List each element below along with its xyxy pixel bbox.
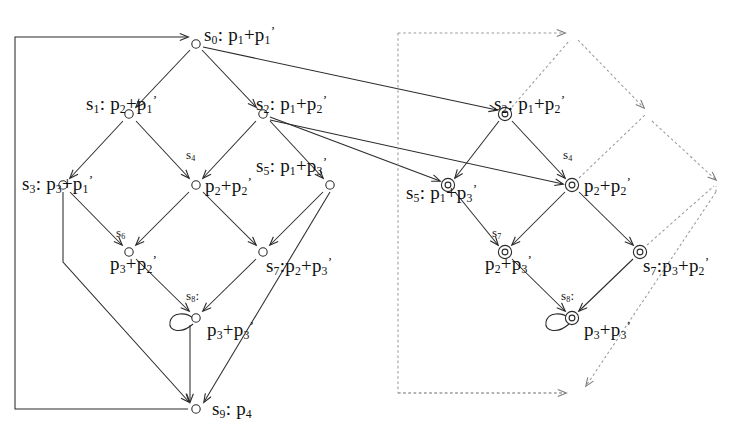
label-s6-expr: p3+p2’ bbox=[110, 253, 157, 275]
dashed-edge-right-down bbox=[652, 121, 716, 180]
edge-s5-s7 bbox=[270, 192, 323, 245]
dashed-edge-apex-right bbox=[578, 40, 644, 108]
label-s2: s2: p1+p2’ bbox=[256, 93, 327, 115]
label-s5: s5: p1+p3’ bbox=[256, 155, 327, 177]
label-s8-tag: s8: bbox=[186, 289, 199, 304]
edge-s4-s7 bbox=[203, 192, 256, 245]
node-r8-inner bbox=[569, 315, 575, 321]
edge-s2-s4 bbox=[203, 121, 256, 178]
edge-s3-s9 bbox=[63, 192, 189, 402]
node-s4 bbox=[192, 181, 200, 189]
label-s4-tag: s4 bbox=[186, 148, 196, 163]
label-s9: s9: p4 bbox=[212, 399, 252, 420]
label-r8-tag: s8: bbox=[561, 289, 574, 304]
label-r8-expr: p3+p3’ bbox=[584, 319, 631, 341]
edge-r2-r5 bbox=[455, 121, 499, 178]
dashed-edge-sink-right bbox=[586, 192, 716, 386]
edge-s1-s3 bbox=[70, 121, 123, 178]
node-s9 bbox=[192, 405, 200, 413]
dashed-box bbox=[398, 33, 566, 393]
node-s8 bbox=[192, 314, 200, 322]
label-r7b: s7:p3+p2’ bbox=[643, 255, 709, 277]
label-s1: s1: p2+p1’ bbox=[86, 93, 157, 115]
label-s6-tag: s6 bbox=[116, 226, 126, 241]
edge-s5-s9 bbox=[204, 192, 330, 402]
edge-s7-s8 bbox=[203, 259, 256, 311]
diagram-vector-layer bbox=[0, 0, 755, 443]
label-s7: s7:p2+p3’ bbox=[266, 255, 332, 277]
label-r5: s5: p1+p3’ bbox=[406, 182, 477, 204]
diagram-canvas: s0: p1+p1’ s1: p2+p1’ s2: p1+p2’ s3: p3+… bbox=[0, 0, 755, 443]
label-s4-expr: p2+p2’ bbox=[205, 175, 252, 197]
label-r7a-tag: s7 bbox=[492, 226, 502, 241]
right-graph-nodes bbox=[441, 107, 646, 324]
node-s5 bbox=[326, 181, 334, 189]
edge-s1-s4 bbox=[136, 121, 189, 178]
label-r2: s2: p1+p2’ bbox=[494, 93, 565, 115]
label-r4-expr: p2+p2’ bbox=[584, 175, 631, 197]
edge-s3-s6 bbox=[70, 192, 122, 245]
edge-s0-s2 bbox=[202, 50, 256, 107]
edge-r7b-r8 bbox=[579, 259, 633, 311]
edge-s4-s6 bbox=[136, 192, 189, 245]
label-s0: s0: p1+p1’ bbox=[204, 24, 275, 46]
label-s3: s3: p3+p1’ bbox=[22, 173, 93, 195]
dashed-r4-upper bbox=[579, 114, 646, 178]
edge-r2-r4 bbox=[512, 121, 565, 178]
label-r7a-expr: p2+p3’ bbox=[485, 253, 532, 275]
label-r4-tag: s4 bbox=[563, 148, 573, 163]
right-graph-edges bbox=[455, 121, 633, 311]
label-s8-expr: p3+p3’ bbox=[207, 319, 254, 341]
edge-s0-r2 bbox=[203, 47, 497, 110]
edge-r4-r7b bbox=[579, 192, 633, 245]
node-s0 bbox=[192, 40, 200, 48]
dashed-lattice-edges bbox=[398, 33, 716, 393]
node-r4-inner bbox=[569, 182, 575, 188]
dashed-r7b-upper bbox=[647, 186, 714, 245]
edge-r4-r7a bbox=[512, 192, 565, 245]
